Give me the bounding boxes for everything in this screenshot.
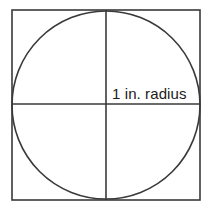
figure-canvas: 1 in. radius xyxy=(0,0,210,213)
figure-background xyxy=(0,0,210,213)
radius-label: 1 in. radius xyxy=(112,85,187,102)
geometry-figure: 1 in. radius xyxy=(0,0,210,213)
